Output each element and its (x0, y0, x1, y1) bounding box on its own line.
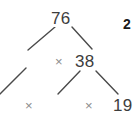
multiplication-operator-icon-bottom-right: × (84, 99, 94, 112)
factor-node-19: 19 (112, 97, 133, 114)
multiplication-operator-icon-bottom-left: × (24, 99, 34, 112)
branch-38-right (96, 71, 118, 94)
branch-partial-left-edge (0, 68, 26, 94)
branch-76-left (28, 27, 55, 50)
edge-marker-2: 2 (123, 17, 131, 31)
branch-38-left (58, 71, 80, 94)
factor-node-38: 38 (74, 53, 95, 70)
multiplication-operator-icon-middle: × (54, 55, 64, 68)
factor-tree-diagram: 76 38 19 × × × 2 (0, 0, 135, 122)
branch-76-right (72, 27, 92, 49)
factor-node-76: 76 (50, 10, 71, 27)
